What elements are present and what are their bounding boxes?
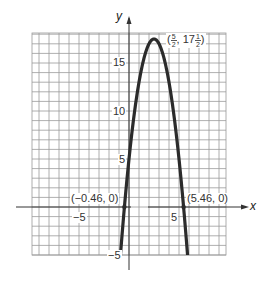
vertex-close-paren: ) (201, 33, 205, 45)
x-tick-5: 5 (170, 212, 178, 223)
vertex-label: (52, 1712) (166, 33, 206, 48)
root-left-label: (−0.46, 0) (70, 193, 119, 204)
vertex-separator: , 17 (177, 33, 195, 45)
y-tick-neg5: −5 (107, 250, 122, 261)
axes (16, 16, 249, 270)
x-axis-label: x (250, 200, 256, 212)
x-tick-neg5: −5 (72, 212, 87, 223)
y-tick-10: 10 (112, 106, 126, 117)
y-tick-5: 5 (118, 154, 126, 165)
parabola-chart (0, 0, 265, 286)
y-axis-label: y (116, 10, 122, 22)
y-tick-15: 15 (112, 57, 126, 68)
root-right-label: (5.46, 0) (186, 193, 229, 204)
